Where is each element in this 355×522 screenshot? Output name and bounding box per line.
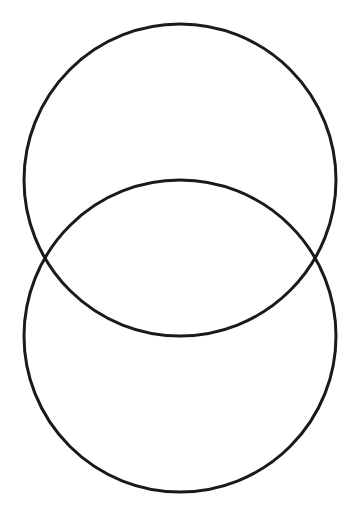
diagram-canvas [0, 0, 355, 522]
